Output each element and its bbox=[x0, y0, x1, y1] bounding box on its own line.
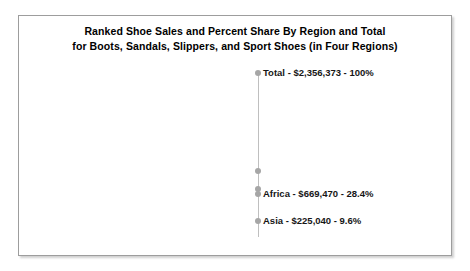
plot-area: Total - $2,356,373 - 100% Middle East - … bbox=[19, 16, 451, 255]
data-point-label-africa: Africa - $669,470 - 28.4% bbox=[263, 188, 373, 199]
chart-frame: Ranked Shoe Sales and Percent Share By R… bbox=[18, 15, 452, 256]
data-point-marker bbox=[255, 191, 261, 197]
data-point-label-asia: Asia - $225,040 - 9.6% bbox=[263, 215, 361, 226]
data-point-marker bbox=[255, 168, 261, 174]
data-point-label-total: Total - $2,356,373 - 100% bbox=[263, 67, 374, 78]
data-point-marker bbox=[255, 218, 261, 224]
data-point-marker bbox=[255, 70, 261, 76]
value-axis-line bbox=[258, 73, 259, 237]
